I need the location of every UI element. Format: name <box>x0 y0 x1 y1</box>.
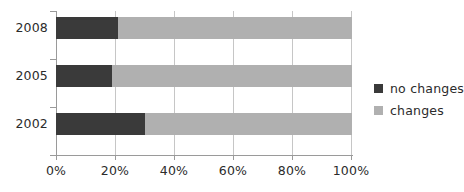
legend-label-no-changes: no changes <box>390 81 464 96</box>
x-tick-mark <box>233 155 234 160</box>
x-axis-label-100: 100% <box>321 164 381 178</box>
legend-swatch-icon <box>374 84 383 93</box>
x-axis-label-20: 20% <box>85 164 145 178</box>
x-tick-mark <box>115 155 116 160</box>
x-axis-label-60: 60% <box>203 164 263 178</box>
bar-segment-no-changes-2008[interactable] <box>56 17 118 39</box>
bar-segment-changes-2008[interactable] <box>118 17 352 39</box>
y-axis-label-2005: 2005 <box>0 69 48 83</box>
x-axis-line <box>56 155 353 156</box>
legend-label-changes: changes <box>390 103 444 118</box>
y-tick-mark <box>50 59 56 60</box>
x-tick-mark <box>174 155 175 160</box>
x-tick-mark <box>56 155 57 160</box>
x-tick-mark <box>351 155 352 160</box>
x-axis-label-40: 40% <box>144 164 204 178</box>
legend-item-no-changes[interactable]: no changes <box>374 77 464 99</box>
y-tick-mark <box>50 107 56 108</box>
bar-row-2002 <box>56 113 352 135</box>
x-axis-label-0: 0% <box>26 164 86 178</box>
y-axis-label-2002: 2002 <box>0 117 48 131</box>
y-tick-mark <box>50 11 56 12</box>
x-axis-label-80: 80% <box>262 164 322 178</box>
bar-row-2005 <box>56 65 352 87</box>
bar-segment-no-changes-2005[interactable] <box>56 65 112 87</box>
bar-row-2008 <box>56 17 352 39</box>
legend-swatch-icon <box>374 106 383 115</box>
y-axis-label-2008: 2008 <box>0 21 48 35</box>
legend-item-changes[interactable]: changes <box>374 99 464 121</box>
legend: no changes changes <box>374 77 464 121</box>
bar-segment-changes-2005[interactable] <box>112 65 352 87</box>
bar-segment-changes-2002[interactable] <box>145 113 352 135</box>
bar-segment-no-changes-2002[interactable] <box>56 113 145 135</box>
plot-area <box>56 11 352 155</box>
x-tick-mark <box>292 155 293 160</box>
